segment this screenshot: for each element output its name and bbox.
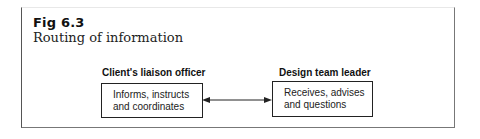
node-text-line: Informs, instructs [113, 89, 202, 101]
node-text-line: and questions [284, 99, 372, 111]
figure-title: Routing of information [33, 30, 183, 45]
role-label-client-liaison: Client's liaison officer [102, 67, 206, 78]
bidirectional-arrow-icon [202, 95, 272, 105]
node-text-line: and coordinates [113, 101, 202, 113]
figure-number: Fig 6.3 [33, 15, 85, 30]
figure-frame [21, 7, 455, 128]
node-text-line: Receives, advises [284, 87, 372, 99]
node-box-client-liaison: Informs, instructs and coordinates [101, 83, 203, 118]
role-label-design-team-leader: Design team leader [279, 67, 371, 78]
node-box-design-team-leader: Receives, advises and questions [272, 81, 373, 117]
